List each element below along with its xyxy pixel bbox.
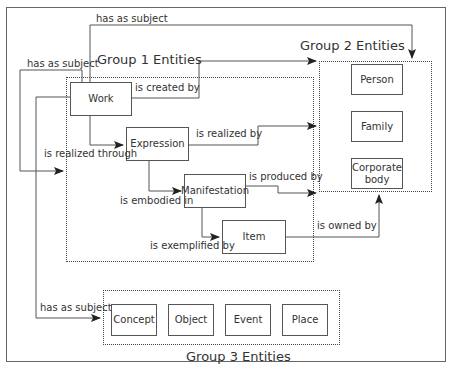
label-has-as-subject-bottom: has as subject	[40, 302, 112, 314]
entity-place[interactable]: Place	[282, 304, 328, 336]
group1-title: Group 1 Entities	[97, 52, 202, 67]
label-is-exemplified-by: is exemplified by	[150, 240, 235, 252]
entity-family[interactable]: Family	[351, 111, 403, 142]
entity-person[interactable]: Person	[351, 64, 403, 95]
label-has-as-subject-top: has as subject	[96, 13, 168, 25]
group2-title: Group 2 Entities	[300, 38, 405, 53]
entity-concept[interactable]: Concept	[111, 304, 157, 336]
label-has-as-subject-left: has as subject	[27, 58, 99, 70]
label-is-realized-by: is realized by	[196, 128, 262, 140]
label-is-owned-by: is owned by	[317, 220, 377, 232]
entity-event[interactable]: Event	[225, 304, 271, 336]
entity-work[interactable]: Work	[70, 82, 132, 116]
label-is-produced-by: is produced by	[249, 171, 323, 183]
entity-object[interactable]: Object	[168, 304, 214, 336]
label-is-embodied-in: is embodied in	[120, 195, 193, 207]
label-is-realized-through: is realized through	[44, 148, 137, 160]
group3-title: Group 3 Entities	[186, 349, 291, 364]
label-is-created-by: is created by	[135, 82, 200, 94]
entity-corporate-body[interactable]: Corporate body	[351, 158, 403, 189]
